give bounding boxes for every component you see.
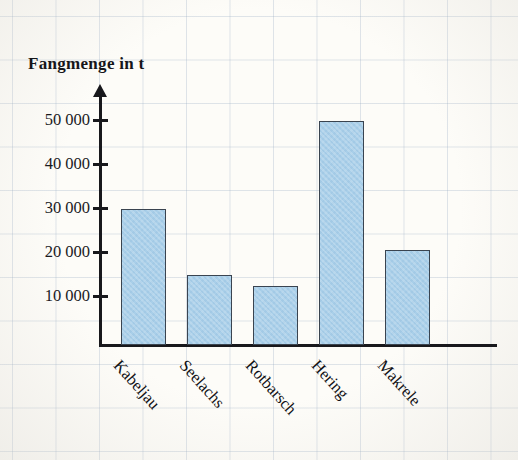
bar-hering[interactable]	[319, 121, 364, 345]
chart-axis-title: Fangmenge in t	[28, 54, 145, 74]
y-tick-label-30000: 30 000	[12, 198, 90, 218]
y-tick-40000	[93, 163, 108, 166]
x-label-rotbarsch: Rotbarsch	[241, 356, 301, 419]
y-tick-30000	[93, 207, 108, 210]
bar-seelachs[interactable]	[187, 275, 232, 345]
y-tick-label-10000: 10 000	[12, 286, 90, 306]
y-tick-20000	[93, 251, 108, 254]
x-label-hering: Hering	[307, 356, 353, 403]
y-tick-label-40000: 40 000	[12, 154, 90, 174]
y-tick-label-50000: 50 000	[12, 110, 90, 130]
bar-chart: Fangmenge in t 50 000 40 000 30 000 20 0…	[0, 0, 518, 460]
bar-rotbarsch[interactable]	[253, 286, 298, 345]
y-tick-label-20000: 20 000	[12, 242, 90, 262]
y-tick-50000	[93, 119, 108, 122]
bar-makrele[interactable]	[385, 250, 430, 345]
x-label-makrele: Makrele	[373, 356, 425, 410]
bar-kabeljau[interactable]	[121, 209, 166, 345]
x-label-seelachs: Seelachs	[175, 356, 228, 412]
x-label-kabeljau: Kabeljau	[109, 356, 164, 414]
y-axis-line	[99, 92, 102, 346]
y-tick-10000	[93, 295, 108, 298]
